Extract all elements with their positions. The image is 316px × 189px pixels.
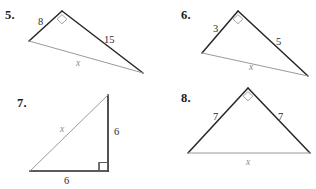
problem-number-8: 8.: [181, 92, 191, 105]
triangle-8: [188, 88, 310, 153]
worksheet-page: 5. 6. 7. 8.: [0, 0, 316, 189]
triangle-8-side-label-7-right: 7: [278, 112, 283, 123]
triangle-6-side-label-3: 3: [213, 24, 218, 35]
triangle-8-base-label-x: x: [246, 158, 250, 168]
triangle-7-side-label-6-vertical: 6: [114, 127, 119, 138]
triangle-6-side-label-5: 5: [276, 37, 281, 48]
triangle-5-right-angle-marker: [57, 15, 67, 24]
triangle-7-right-angle-marker: [99, 163, 108, 172]
triangle-5-side-label-15: 15: [104, 35, 115, 46]
triangle-8-right-angle-marker: [243, 92, 253, 101]
triangle-6-leg-a: [202, 11, 238, 53]
triangles-figure-layer: [0, 0, 316, 189]
triangle-5-side-label-8: 8: [38, 17, 43, 28]
triangle-5-hypotenuse: [29, 41, 143, 73]
triangle-5-hypotenuse-label-x: x: [76, 59, 80, 69]
triangle-8-side-label-7-left: 7: [213, 112, 218, 123]
triangle-6-hypotenuse-label-x: x: [249, 63, 253, 73]
triangle-7: [30, 95, 108, 171]
triangle-5-leg-a: [29, 11, 62, 41]
triangle-5: [29, 11, 143, 73]
triangle-7-hypotenuse: [30, 95, 108, 171]
triangle-7-right-angle-square: [99, 163, 108, 172]
problem-number-6: 6.: [181, 9, 191, 22]
problem-number-5: 5.: [5, 9, 15, 22]
triangle-7-hypotenuse-label-x: x: [60, 125, 64, 135]
triangle-6-hypotenuse: [202, 53, 308, 76]
triangle-7-side-label-6-horizontal: 6: [64, 176, 69, 187]
triangle-6-right-angle-marker: [233, 15, 243, 24]
triangle-5-leg-b: [62, 11, 143, 73]
problem-number-7: 7.: [17, 97, 27, 110]
triangle-6: [202, 11, 308, 76]
